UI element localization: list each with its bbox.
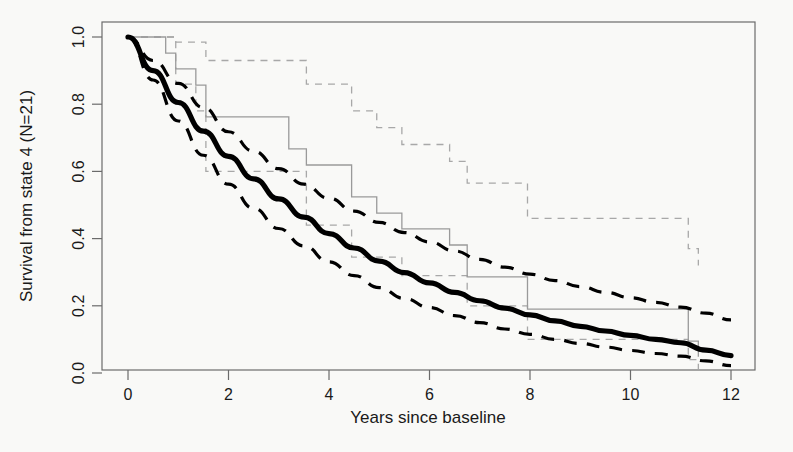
y-tick-label: 0.8: [70, 93, 87, 115]
series-kaplan-meier-95-ci-lower: [128, 37, 698, 370]
series-kaplan-meier-estimate: [128, 37, 698, 357]
figure-canvas: 024681012 0.00.20.40.60.81.0 Years since…: [0, 0, 793, 452]
x-axis: 024681012: [124, 370, 740, 403]
y-tick-label: 0.4: [70, 227, 87, 249]
plot-frame: [102, 22, 755, 370]
y-axis: 0.00.20.40.60.81.0: [70, 26, 102, 384]
x-tick-label: 2: [224, 386, 233, 403]
y-tick-label: 0.2: [70, 295, 87, 317]
series-layer: [128, 37, 731, 370]
y-tick-label: 0.6: [70, 160, 87, 182]
x-tick-label: 6: [425, 386, 434, 403]
y-tick-label: 0.0: [70, 362, 87, 384]
survival-plot: 024681012 0.00.20.40.60.81.0 Years since…: [0, 0, 793, 452]
series-kaplan-meier-95-ci-upper: [128, 37, 698, 265]
y-tick-label: 1.0: [70, 26, 87, 48]
series-model-95-ci-upper: [128, 37, 731, 320]
x-tick-label: 10: [622, 386, 640, 403]
x-axis-title: Years since baseline: [350, 408, 505, 427]
series-model-95-ci-lower: [128, 37, 731, 366]
y-axis-title: Survival from state 4 (N=21): [17, 90, 36, 302]
x-tick-label: 12: [722, 386, 740, 403]
x-tick-label: 4: [325, 386, 334, 403]
series-fitted-model-survival: [128, 37, 731, 356]
x-tick-label: 0: [124, 386, 133, 403]
x-tick-label: 8: [526, 386, 535, 403]
